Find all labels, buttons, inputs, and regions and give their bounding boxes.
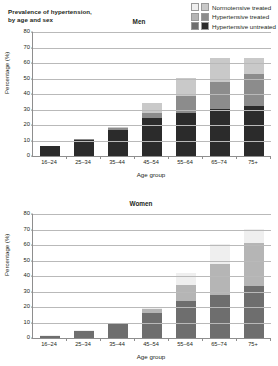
x-tick-mark (100, 156, 101, 159)
bar-stack (40, 146, 59, 156)
bar-segment (210, 244, 229, 264)
bar-stack (244, 58, 263, 156)
bar-segment (176, 285, 195, 301)
panel-title-women: Women (0, 200, 278, 207)
x-tick-label: 25–34 (66, 159, 100, 165)
bar-segment (176, 113, 195, 156)
bar-segment (74, 140, 93, 156)
x-tick-mark (270, 338, 271, 341)
bar-segment (210, 295, 229, 338)
y-tick-label: 80 (24, 29, 30, 35)
gridline (33, 307, 271, 308)
x-tick-mark (66, 156, 67, 159)
y-tick-mark (31, 276, 34, 277)
gridline (33, 292, 271, 293)
x-tick-mark (100, 338, 101, 341)
y-tick-mark (31, 47, 34, 48)
bar-segment (142, 118, 161, 156)
x-axis-label-men: Age group (32, 171, 270, 178)
bar-segment (142, 103, 161, 112)
x-tick-label: 65–74 (202, 341, 236, 347)
y-tick-label: 60 (24, 60, 30, 66)
gridline (33, 245, 271, 246)
y-tick-label: 0 (27, 335, 30, 341)
bar-segment (244, 243, 263, 286)
bar-segment (210, 109, 229, 156)
y-tick-label: 70 (24, 227, 30, 233)
y-tick-label: 60 (24, 242, 30, 248)
bar-stack (74, 139, 93, 156)
y-tick-label: 80 (24, 211, 30, 217)
bar-segment (244, 106, 263, 156)
legend-swatch-men (201, 3, 209, 11)
chart-men: Men 01020304050607080 Percentage (%) 16–… (0, 18, 278, 184)
x-tick-mark (134, 156, 135, 159)
bar-segment (244, 58, 263, 74)
chart-women: Women 01020304050607080 Percentage (%) 1… (0, 200, 278, 366)
x-tick-mark (66, 338, 67, 341)
y-axis-label-men: Percentage (%) (3, 52, 10, 94)
x-tick-label: 35–44 (100, 341, 134, 347)
bar-segment (142, 313, 161, 338)
x-tick-label: 45–54 (134, 341, 168, 347)
figure-root: Prevalence of hypertension, by age and s… (0, 0, 278, 366)
y-tick-label: 10 (24, 320, 30, 326)
bar-segment (108, 324, 127, 338)
plot-area-women: 01020304050607080 (32, 214, 271, 338)
x-tick-mark (270, 156, 271, 159)
y-tick-label: 20 (24, 304, 30, 310)
gridline (33, 94, 271, 95)
x-tick-mark (236, 156, 237, 159)
bar-segment (40, 146, 59, 156)
y-tick-label: 50 (24, 76, 30, 82)
gridline (33, 261, 271, 262)
bar-segment (210, 264, 229, 294)
gridline (33, 48, 271, 49)
gridline (33, 32, 271, 33)
bar-stack (74, 330, 93, 338)
y-tick-mark (31, 32, 34, 33)
gridline (33, 323, 271, 324)
gridline (33, 125, 271, 126)
plot-area-men: 01020304050607080 (32, 32, 271, 156)
gridline (33, 276, 271, 277)
bar-stack (108, 127, 127, 156)
y-tick-label: 20 (24, 122, 30, 128)
y-tick-mark (31, 63, 34, 64)
bar-segment (244, 286, 263, 338)
y-tick-label: 30 (24, 289, 30, 295)
x-tick-label: 35–44 (100, 159, 134, 165)
y-tick-mark (31, 109, 34, 110)
y-tick-mark (31, 322, 34, 323)
y-tick-label: 70 (24, 45, 30, 51)
x-tick-label: 65–74 (202, 159, 236, 165)
bar-stack (142, 103, 161, 156)
y-tick-mark (31, 245, 34, 246)
y-tick-mark (31, 140, 34, 141)
x-tick-mark (134, 338, 135, 341)
bar-stack (176, 78, 195, 156)
x-axis-men (32, 156, 270, 157)
legend-swatch-women (191, 3, 199, 11)
bar-stack (176, 273, 195, 338)
y-tick-label: 30 (24, 107, 30, 113)
x-tick-mark (168, 338, 169, 341)
y-tick-mark (31, 214, 34, 215)
x-tick-mark (236, 338, 237, 341)
y-tick-mark (31, 229, 34, 230)
y-tick-mark (31, 94, 34, 95)
gridline (33, 230, 271, 231)
x-tick-label: 16–24 (32, 341, 66, 347)
x-tick-mark (202, 338, 203, 341)
x-tick-mark (202, 156, 203, 159)
legend-swatch-pair (191, 3, 210, 11)
y-tick-mark (31, 78, 34, 79)
x-tick-label: 75+ (236, 341, 270, 347)
y-tick-label: 40 (24, 91, 30, 97)
bar-segment (108, 130, 127, 156)
bar-segment (210, 82, 229, 108)
y-tick-mark (31, 125, 34, 126)
gridline (33, 214, 271, 215)
gridline (33, 63, 271, 64)
panel-title-men: Men (0, 18, 278, 25)
